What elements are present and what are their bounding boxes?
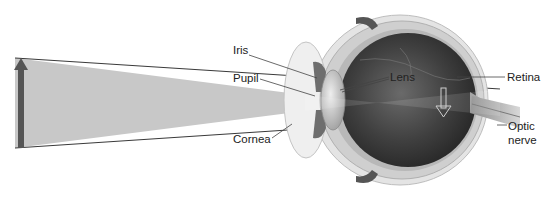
label-retina: Retina [507, 71, 540, 84]
label-lens: Lens [390, 71, 415, 84]
eye-diagram: Iris Pupil Cornea Lens Retina Optic nerv… [0, 0, 557, 201]
label-cornea: Cornea [233, 133, 271, 146]
label-iris: Iris [233, 44, 248, 57]
label-pupil: Pupil [233, 72, 259, 85]
label-optic-nerve-line2: nerve [508, 134, 537, 147]
label-optic-nerve-line1: Optic [508, 120, 535, 133]
eye-diagram-graphic [0, 0, 557, 201]
